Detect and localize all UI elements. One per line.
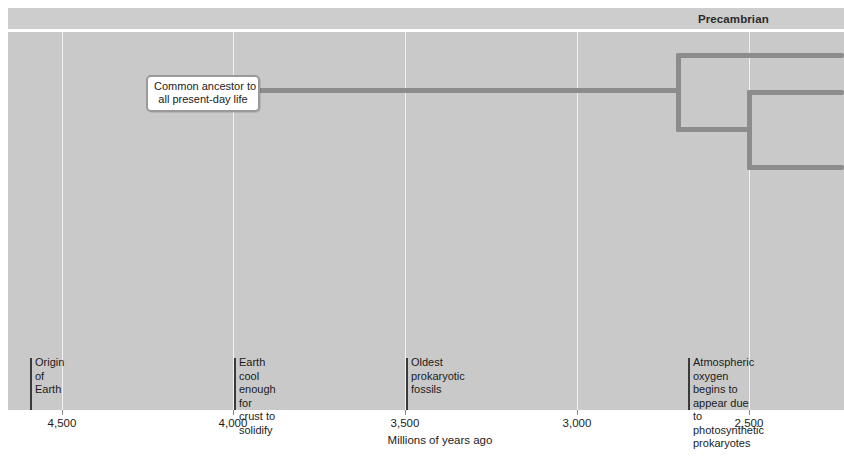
axis-label-3000: 3,000 (563, 417, 592, 429)
event-marker-rule (688, 358, 690, 410)
axis-tick-4000 (233, 410, 234, 415)
event-marker-rule (30, 358, 32, 410)
tree-node-1-upper-branch (676, 53, 844, 58)
axis-label-3500: 3,500 (391, 417, 420, 429)
callout-line-2: all present-day life (154, 93, 252, 106)
tree-node-1-lower-branch (676, 127, 752, 132)
event-label-line-2: begins to appear due (693, 383, 764, 410)
axis-label-4500: 4,500 (48, 417, 77, 429)
event-label-line-1: Atmospheric oxygen (693, 356, 764, 383)
axis-tick-3000 (577, 410, 578, 415)
era-label-precambrian: Precambrian (698, 11, 769, 28)
event-label-line-2: Earth (35, 383, 64, 397)
callout-line-1: Common ancestor to (154, 80, 252, 93)
gridline-4500 (62, 32, 63, 410)
tree-node-1-vertical (676, 53, 681, 132)
axis-label-4000: 4,000 (219, 417, 248, 429)
event-label: Oldest prokaryotic fossils (411, 356, 465, 397)
callout-common-ancestor: Common ancestor to all present-day life (146, 75, 260, 112)
event-label-line-1: Origin of (35, 356, 64, 383)
tree-stem-common-ancestor (258, 88, 681, 93)
precambrian-timeline-figure: Precambrian Common ancestor to all prese… (0, 0, 844, 459)
tree-node-2-upper-branch (747, 90, 844, 95)
gridline-2500 (749, 32, 750, 410)
event-label: Origin of Earth (35, 356, 64, 397)
event-label: Atmospheric oxygen begins to appear due … (693, 356, 764, 451)
axis-title: Millions of years ago (388, 434, 493, 446)
axis-tick-2500 (749, 410, 750, 415)
event-label-line-1: Oldest prokaryotic fossils (411, 356, 465, 397)
event-marker-rule (406, 358, 408, 410)
axis-tick-3500 (405, 410, 406, 415)
axis-tick-4500 (62, 410, 63, 415)
event-marker-rule (234, 358, 236, 410)
axis-label-2500: 2,500 (735, 417, 764, 429)
event-label-line-1: Earth cool enough for (239, 356, 276, 410)
tree-node-2-lower-branch (747, 165, 844, 170)
timeline-panel: Common ancestor to all present-day life … (8, 32, 844, 410)
event-label-line-4: prokaryotes (693, 437, 764, 451)
tree-node-2-vertical (747, 90, 752, 170)
